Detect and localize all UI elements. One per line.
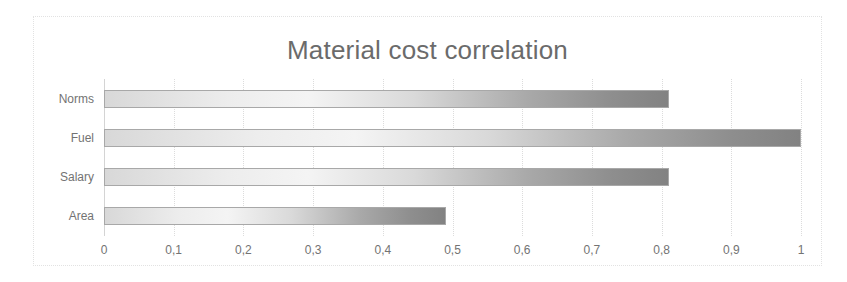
bar-norms (104, 90, 669, 108)
x-tick-label: 0,8 (653, 243, 670, 257)
category-label-area: Area (0, 207, 94, 225)
x-tick-label: 0,1 (165, 243, 182, 257)
x-tick-label: 0,4 (374, 243, 391, 257)
chart-frame: Material cost correlation NormsFuelSalar… (33, 16, 822, 266)
bar-row: Salary (104, 168, 801, 186)
category-label-fuel: Fuel (0, 129, 94, 147)
bar-salary (104, 168, 669, 186)
x-tick-label: 0 (101, 243, 108, 257)
plot-area: NormsFuelSalaryArea (104, 79, 801, 236)
x-tick-label: 0,7 (584, 243, 601, 257)
x-tick-label: 0,9 (723, 243, 740, 257)
bar-area (104, 207, 446, 225)
category-label-norms: Norms (0, 90, 94, 108)
x-tick-label: 0,2 (235, 243, 252, 257)
chart-title: Material cost correlation (34, 35, 821, 66)
bar-row: Fuel (104, 129, 801, 147)
x-tick-label: 0,6 (514, 243, 531, 257)
x-tick-label: 0,3 (305, 243, 322, 257)
gridline (801, 79, 802, 236)
bar-row: Area (104, 207, 801, 225)
x-axis-tick-labels: 00,10,20,30,40,50,60,70,80,91 (104, 243, 801, 263)
x-tick-label: 1 (798, 243, 805, 257)
x-tick-label: 0,5 (444, 243, 461, 257)
category-label-salary: Salary (0, 168, 94, 186)
bar-fuel (104, 129, 801, 147)
bar-row: Norms (104, 90, 801, 108)
